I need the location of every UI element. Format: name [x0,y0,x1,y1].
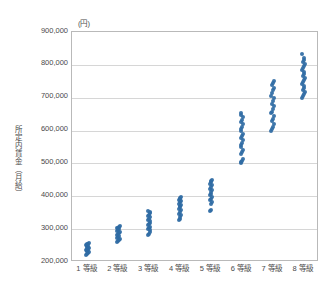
x-tick-label: 7 等級 [256,264,287,273]
data-point [87,241,91,245]
x-tick-label: 5 等級 [195,264,226,273]
y-tick-label: 600,000 [18,125,68,133]
x-tick-label: 4 等級 [164,264,195,273]
plot-area [71,31,318,261]
x-tick-label: 6 等級 [225,264,256,273]
y-tick-label: 400,000 [18,191,68,199]
y-tick-label: 900,000 [18,27,68,35]
y-tick-label: 500,000 [18,158,68,166]
gridline [72,196,317,197]
gridline [72,131,317,132]
y-tick-label: 200,000 [18,257,68,265]
gridline [72,163,317,164]
data-point [209,208,213,212]
y-tick-label: 800,000 [18,59,68,67]
y-tick-label: 700,000 [18,92,68,100]
data-point [300,52,304,56]
gridline [72,229,317,230]
data-point [272,79,276,83]
x-tick-label: 8 等級 [287,264,318,273]
x-tick-label: 2 等級 [102,264,133,273]
scatter-chart-figure: (円) 所定内賃金（月給） 200,000300,000400,000500,0… [0,0,329,287]
data-point [210,178,214,182]
data-point [239,111,243,115]
x-tick-label: 1 等級 [71,264,102,273]
data-point [179,195,183,199]
data-point [146,209,150,213]
gridline [72,65,317,66]
data-point [302,56,306,60]
gridline [72,98,317,99]
data-point [118,224,122,228]
x-tick-label: 3 等級 [133,264,164,273]
y-tick-label: 300,000 [18,224,68,232]
data-point [241,157,245,161]
